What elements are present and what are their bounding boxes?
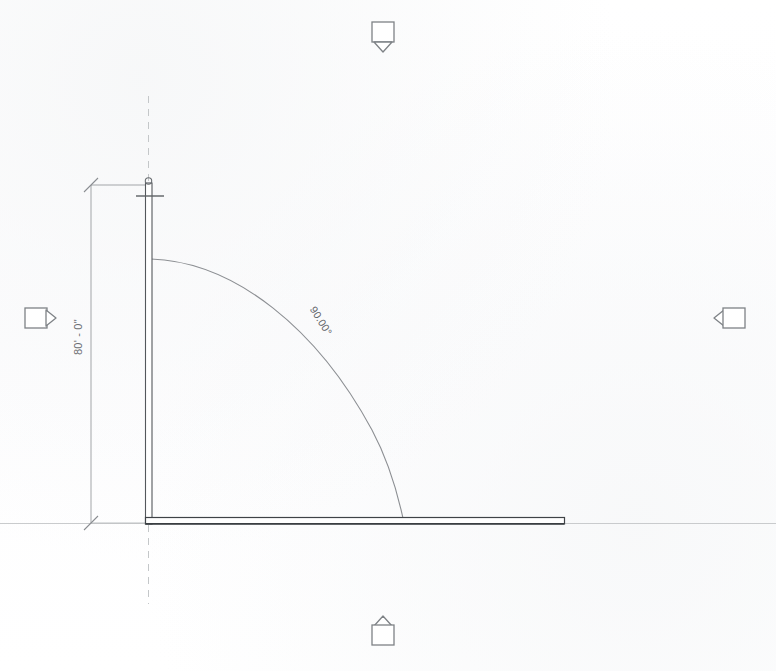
- radius-arc: [151, 259, 404, 523]
- marker-pointer-down-icon: [374, 42, 392, 52]
- marker-body: [723, 308, 745, 328]
- drawing-canvas: the reed ribe reee weee ee ee ee reee an…: [0, 0, 776, 671]
- walls[interactable]: [146, 183, 565, 524]
- reference-lines: [0, 96, 776, 604]
- marker-body: [372, 22, 394, 42]
- marker-body: [25, 308, 47, 328]
- cad-drawing-svg: [0, 0, 776, 671]
- vertical-linear-dimension[interactable]: [84, 178, 150, 530]
- vertical-wall: [146, 183, 153, 524]
- vertical-dimension-label[interactable]: 80' - 0": [72, 319, 84, 355]
- elevation-marker-right[interactable]: [714, 308, 745, 328]
- radius-arc-group[interactable]: [151, 259, 404, 523]
- elevation-marker-top[interactable]: [372, 22, 394, 52]
- marker-pointer-right-icon: [46, 310, 56, 326]
- elevation-marker-left[interactable]: [25, 308, 56, 328]
- elevation-marker-bottom[interactable]: [372, 616, 394, 645]
- marker-body: [372, 625, 394, 645]
